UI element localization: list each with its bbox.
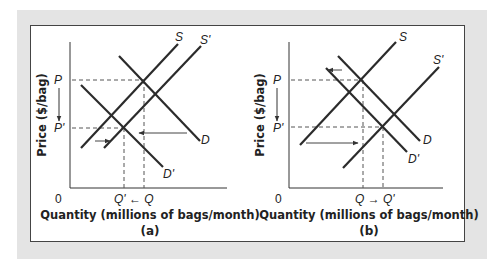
label-quantity-change: Q' ← Q bbox=[114, 192, 154, 206]
label-p: P bbox=[54, 73, 62, 87]
label-s: S bbox=[175, 30, 183, 44]
origin-label: 0 bbox=[55, 192, 62, 206]
label-s-prime: S' bbox=[433, 53, 444, 67]
x-axis-label: Quantity (millions of bags/month) bbox=[40, 208, 259, 222]
label-d-prime: D' bbox=[163, 167, 175, 181]
y-axis-label: Price ($/bag) bbox=[253, 73, 267, 157]
label-d: D bbox=[423, 133, 432, 147]
label-s-prime: S' bbox=[200, 33, 211, 47]
label-d-prime: D' bbox=[408, 152, 420, 166]
supply-demand-figure: S S' D D' P P' Q' ← Q 0 Quantity (millio… bbox=[0, 0, 487, 259]
demand-curve-d-prime bbox=[326, 68, 407, 152]
label-p-prime: P' bbox=[273, 121, 284, 135]
origin-label: 0 bbox=[275, 192, 282, 206]
panel-caption: (a) bbox=[140, 224, 159, 238]
panel-a: S S' D D' P P' Q' ← Q 0 Quantity (millio… bbox=[35, 30, 260, 238]
panel-caption: (b) bbox=[359, 224, 379, 238]
x-axis-label: Quantity (millions of bags/month) bbox=[259, 208, 478, 222]
label-p-prime: P' bbox=[54, 121, 65, 135]
label-p: P bbox=[273, 73, 281, 87]
label-d: D bbox=[201, 133, 210, 147]
supply-curve-s bbox=[300, 42, 396, 145]
label-quantity-change: Q → Q' bbox=[355, 192, 395, 206]
demand-curve-d bbox=[119, 56, 200, 141]
label-s: S bbox=[399, 30, 407, 44]
panel-b: S S' D D' P P' Q → Q' 0 Quantity (millio… bbox=[253, 30, 479, 238]
y-axis-label: Price ($/bag) bbox=[35, 73, 49, 157]
